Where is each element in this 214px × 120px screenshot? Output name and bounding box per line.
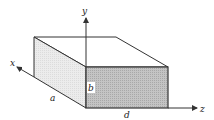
y-axis-label: y bbox=[81, 6, 88, 16]
height-label-b: b bbox=[88, 83, 94, 93]
z-axis-label: z bbox=[199, 104, 205, 114]
box-diagram: y x z a b d bbox=[0, 0, 214, 120]
x-axis bbox=[17, 67, 34, 77]
width-label-a: a bbox=[50, 93, 55, 103]
x-axis-label: x bbox=[10, 58, 15, 68]
length-label-d: d bbox=[124, 110, 130, 120]
front-face bbox=[86, 67, 168, 108]
